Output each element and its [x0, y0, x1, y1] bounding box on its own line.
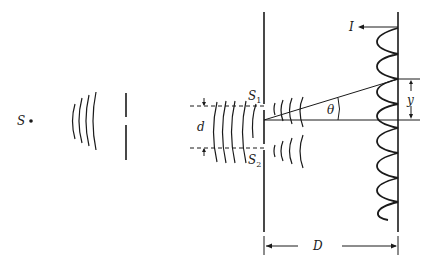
intensity-pattern: [377, 28, 398, 220]
intensity-arrow: [358, 25, 398, 30]
slit2-wavelets: [274, 135, 303, 168]
source-point: [29, 119, 33, 123]
angle-label: θ: [327, 103, 335, 117]
intensity-label: I: [348, 20, 354, 34]
D-dimension: [266, 244, 397, 249]
source-wavefronts: [73, 92, 97, 150]
source-label: S: [17, 114, 25, 128]
separation-label: d: [197, 120, 205, 134]
double-slit-diagram: S S1 S2 d θ I y D: [0, 0, 440, 267]
distance-label: D: [312, 239, 323, 253]
slit2-label: S2: [248, 153, 261, 169]
slit1-label: S1: [248, 89, 261, 105]
theta-arc: [338, 98, 340, 120]
fringe-offset-label: y: [406, 93, 414, 107]
